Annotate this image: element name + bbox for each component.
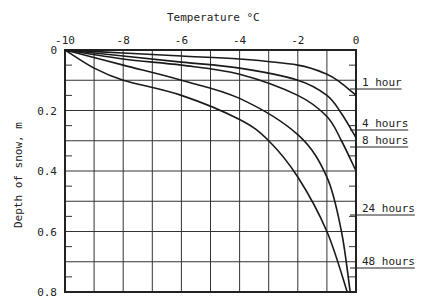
x-tick-label: -6 [175,34,188,47]
series-label: 4 hours [362,117,408,130]
y-tick-labels: 00.20.40.60.8 [37,44,57,299]
x-tick-label: -10 [55,34,75,47]
x-tick-label: -8 [117,34,130,47]
series-label: 48 hours [362,255,415,268]
x-tick-label: 0 [353,34,360,47]
x-axis-title: Temperature °C [167,11,260,24]
series-label: 8 hours [362,134,408,147]
x-tick-labels: -10-8-6-4-20 [55,34,359,47]
x-tick-label: -2 [291,34,304,47]
series-labels: 1 hour4 hours8 hours24 hours48 hours [350,76,415,268]
y-tick-label: 0.6 [37,226,57,239]
series-label: 24 hours [362,202,415,215]
x-tick-label: -4 [233,34,247,47]
y-tick-label: 0.2 [37,105,57,118]
y-tick-label: 0 [50,44,57,57]
y-tick-label: 0.4 [37,165,57,178]
snow-temperature-chart: -10-8-6-4-20 00.20.40.60.8 1 hour4 hours… [0,0,425,308]
y-axis-title: Depth of snow, m [12,122,25,228]
series-label: 1 hour [362,76,402,89]
y-tick-label: 0.8 [37,286,57,299]
